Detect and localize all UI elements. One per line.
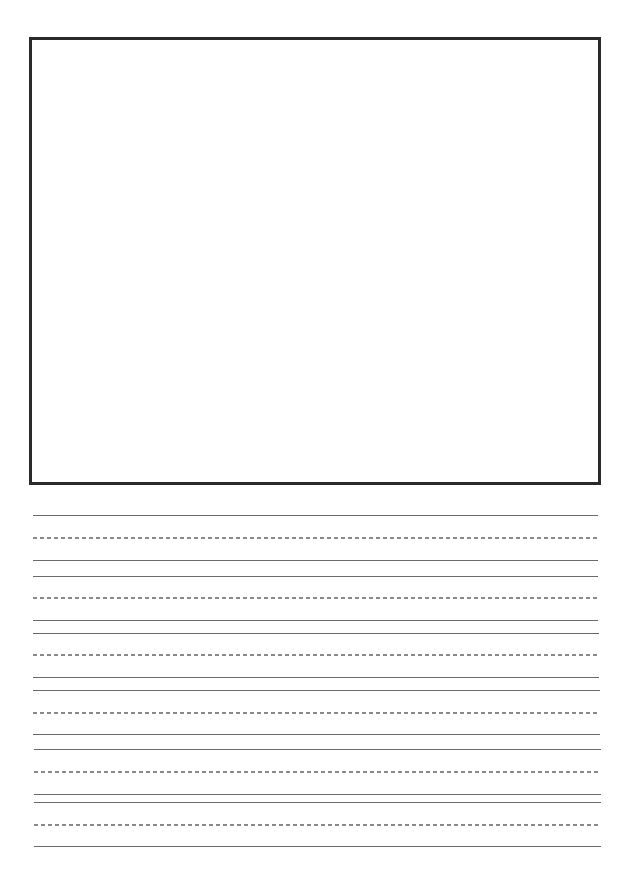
top-line [34,749,601,750]
drawing-box [29,37,601,485]
top-line [33,690,600,691]
top-line [33,576,598,577]
top-line [34,802,601,803]
top-line [33,515,598,516]
midline-dashed [33,597,598,599]
top-line [33,633,599,634]
baseline [33,734,600,735]
midline-dashed [34,824,601,826]
midline-dashed [33,537,598,539]
baseline [33,620,598,621]
baseline [33,677,599,678]
midline-dashed [33,712,600,714]
baseline [34,794,601,795]
midline-dashed [34,771,601,773]
baseline [34,846,601,847]
midline-dashed [33,654,599,656]
baseline [33,560,598,561]
